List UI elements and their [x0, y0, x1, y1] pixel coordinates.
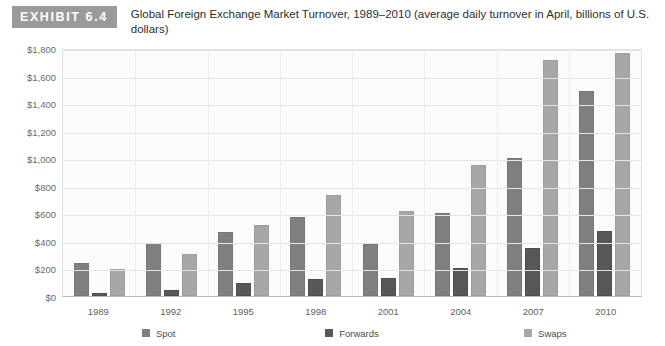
x-axis-tick-label: 2001 — [352, 306, 425, 322]
legend-label: Spot — [156, 328, 176, 339]
bar-spot-1998 — [290, 217, 305, 296]
chart-legend: SpotForwardsSwaps — [62, 324, 642, 342]
bar-forwards-2010 — [597, 231, 612, 296]
bar-group — [63, 50, 135, 296]
bar-forwards-1992 — [164, 290, 179, 296]
category-separator — [135, 50, 136, 296]
plot-area — [62, 49, 642, 297]
legend-label: Forwards — [339, 328, 379, 339]
category-separator — [424, 50, 425, 296]
bar-group — [497, 50, 569, 296]
bar-swaps-2001 — [399, 211, 414, 296]
x-axis: 19891992199519982001200420072010 — [62, 306, 642, 322]
bar-forwards-2001 — [381, 278, 396, 296]
bar-swaps-2007 — [543, 60, 558, 296]
bar-forwards-2004 — [453, 268, 468, 296]
category-separator — [208, 50, 209, 296]
y-axis-tick-label: $1,000 — [27, 154, 56, 165]
category-separator — [280, 50, 281, 296]
bar-spot-2004 — [435, 213, 450, 296]
x-axis-tick-label: 2004 — [425, 306, 498, 322]
bar-swaps-1989 — [110, 269, 125, 296]
y-axis-tick-label: $1,800 — [27, 44, 56, 55]
category-separator — [352, 50, 353, 296]
x-axis-tick-label: 1998 — [280, 306, 353, 322]
exhibit-figure: EXHIBIT 6.4 Global Foreign Exchange Mark… — [0, 0, 665, 346]
x-axis-tick-label: 1989 — [62, 306, 135, 322]
bar-group — [569, 50, 641, 296]
bar-forwards-2007 — [525, 248, 540, 296]
legend-swatch-spot — [142, 329, 150, 337]
legend-swatch-forwards — [325, 329, 333, 337]
exhibit-header: EXHIBIT 6.4 Global Foreign Exchange Mark… — [12, 6, 657, 46]
bar-forwards-1998 — [308, 279, 323, 296]
exhibit-title: Global Foreign Exchange Market Turnover,… — [131, 6, 657, 37]
bar-group — [352, 50, 424, 296]
x-axis-tick-label: 1992 — [135, 306, 208, 322]
y-axis-tick-label: $1,600 — [27, 71, 56, 82]
bar-spot-1989 — [74, 263, 89, 296]
bar-swaps-1998 — [326, 195, 341, 296]
bar-group — [424, 50, 496, 296]
legend-swatch-swaps — [524, 329, 532, 337]
exhibit-number-badge: EXHIBIT 6.4 — [12, 6, 117, 28]
category-separator — [497, 50, 498, 296]
bar-swaps-1992 — [182, 254, 197, 296]
bar-spot-2010 — [579, 91, 594, 296]
y-axis: $0$200$400$600$800$1,000$1,200$1,400$1,6… — [0, 44, 62, 298]
chart-plot-wrapper: $0$200$400$600$800$1,000$1,200$1,400$1,6… — [0, 44, 665, 306]
bar-spot-1995 — [218, 232, 233, 296]
y-axis-tick-label: $400 — [35, 236, 56, 247]
legend-item-forwards: Forwards — [255, 328, 448, 339]
bar-swaps-2004 — [471, 165, 486, 296]
category-separator — [569, 50, 570, 296]
y-axis-tick-label: $0 — [45, 292, 56, 303]
y-axis-tick-label: $200 — [35, 264, 56, 275]
x-axis-tick-label: 1995 — [207, 306, 280, 322]
bar-group — [280, 50, 352, 296]
y-axis-tick-label: $800 — [35, 181, 56, 192]
y-axis-tick-label: $1,400 — [27, 99, 56, 110]
legend-label: Swaps — [538, 328, 567, 339]
bar-swaps-2010 — [615, 53, 630, 296]
bar-group — [135, 50, 207, 296]
bar-spot-2007 — [507, 158, 522, 296]
bar-swaps-1995 — [254, 225, 269, 296]
legend-item-spot: Spot — [62, 328, 255, 339]
y-axis-tick-label: $1,200 — [27, 126, 56, 137]
x-axis-tick-label: 2007 — [497, 306, 570, 322]
y-axis-tick-label: $600 — [35, 209, 56, 220]
x-axis-tick-label: 2010 — [570, 306, 643, 322]
bar-forwards-1995 — [236, 283, 251, 296]
bar-group — [208, 50, 280, 296]
legend-item-swaps: Swaps — [449, 328, 642, 339]
bar-forwards-1989 — [92, 293, 107, 296]
